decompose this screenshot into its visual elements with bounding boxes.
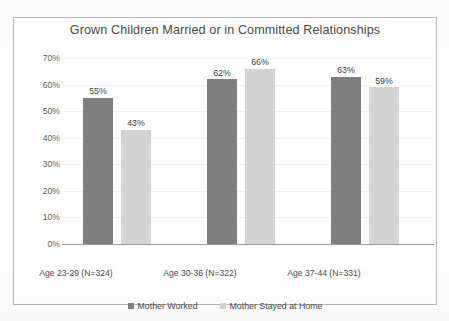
bar-value-home-age-30-36: 66% (238, 57, 282, 67)
bar-value-worked-age-30-36: 62% (200, 68, 244, 78)
legend-swatch-icon-mother-stayed-at-home (220, 303, 226, 309)
bar-worked-age-23-29[interactable] (83, 98, 113, 244)
plot-area: 55% 43% 62% 66% 63% 59% (62, 58, 434, 244)
chart-title: Grown Children Married or in Committed R… (14, 23, 436, 37)
chart-legend: Mother Worked Mother Stayed at Home (14, 301, 436, 311)
chart-frame: Grown Children Married or in Committed R… (13, 17, 437, 305)
bar-value-home-age-37-44: 59% (362, 76, 406, 86)
y-axis: 70% 60% 50% 40% 30% 20% 10% 0% (14, 58, 60, 244)
x-axis-label-age-37-44: Age 37-44 (N=331) (254, 268, 394, 278)
y-axis-tick-10: 10% (16, 212, 60, 222)
y-axis-tick-20: 20% (16, 186, 60, 196)
x-axis-label-age-30-36: Age 30-36 (N=322) (130, 268, 270, 278)
bar-value-worked-age-37-44: 63% (324, 65, 368, 75)
legend-item-mother-worked[interactable]: Mother Worked (128, 301, 198, 311)
screenshot-page: Grown Children Married or in Committed R… (0, 0, 449, 321)
bar-home-age-23-29[interactable] (121, 130, 151, 244)
x-axis-label-age-23-29: Age 23-29 (N=324) (6, 268, 146, 278)
bar-home-age-37-44[interactable] (369, 87, 399, 244)
legend-item-mother-stayed-at-home[interactable]: Mother Stayed at Home (220, 301, 323, 311)
legend-label-mother-stayed-at-home: Mother Stayed at Home (230, 301, 323, 311)
y-axis-tick-50: 50% (16, 106, 60, 116)
bar-group-age-23-29: 55% 43% (76, 58, 190, 244)
y-axis-tick-30: 30% (16, 159, 60, 169)
bar-group-age-37-44: 63% 59% (324, 58, 438, 244)
bar-group-age-30-36: 62% 66% (200, 58, 314, 244)
bar-value-worked-age-23-29: 55% (76, 86, 120, 96)
y-axis-tick-60: 60% (16, 80, 60, 90)
bar-home-age-30-36[interactable] (245, 69, 275, 244)
bar-worked-age-30-36[interactable] (207, 79, 237, 244)
legend-swatch-icon-mother-worked (128, 303, 134, 309)
y-axis-tick-70: 70% (16, 53, 60, 63)
bar-value-home-age-23-29: 43% (114, 118, 158, 128)
bar-worked-age-37-44[interactable] (331, 77, 361, 244)
legend-label-mother-worked: Mother Worked (138, 301, 198, 311)
y-axis-tick-40: 40% (16, 133, 60, 143)
y-axis-tick-0: 0% (16, 239, 60, 249)
